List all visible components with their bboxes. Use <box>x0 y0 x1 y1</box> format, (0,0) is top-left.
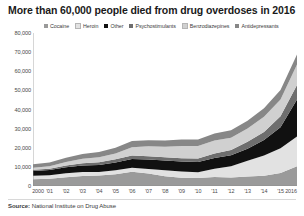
chart-page: More than 60,000 people died from drug o… <box>0 0 304 216</box>
legend-swatch-icon <box>104 24 108 28</box>
source-text: National Institute on Drug Abuse <box>32 203 116 209</box>
x-tick-label: '15 <box>277 188 284 194</box>
y-tick-label: 10,000 <box>0 164 31 170</box>
y-tick-label: 30,000 <box>0 126 31 132</box>
legend-label: Heroin <box>83 23 98 29</box>
y-tick-label: 50,000 <box>0 87 31 93</box>
x-tick-label: '06 <box>129 188 136 194</box>
x-tick-label: '11 <box>211 188 217 194</box>
x-tick-label: '09 <box>178 188 185 194</box>
x-tick-label: '12 <box>228 188 235 194</box>
legend-swatch-icon <box>182 23 188 29</box>
x-tick-label: 2000 <box>32 188 44 194</box>
y-axis-labels: 010,00020,00030,00040,00050,00060,00070,… <box>0 33 31 186</box>
x-axis-labels: 2000'01'02'03'04'05'06'07'08'09'10'11'12… <box>33 188 299 198</box>
x-tick-label: '10 <box>195 188 202 194</box>
legend-swatch-icon <box>75 23 81 29</box>
chart-title: More than 60,000 people died from drug o… <box>8 4 300 16</box>
legend-label: Cocaine <box>50 23 69 29</box>
x-tick-label: '07 <box>145 188 152 194</box>
legend-item-benzodiazepines[interactable]: Benzodiazepines <box>182 23 230 29</box>
legend-label: Psychostimulants <box>135 23 175 29</box>
y-tick-label: 70,000 <box>0 49 31 55</box>
legend-item-psychostimulants[interactable]: Psychostimulants <box>129 23 175 29</box>
stacked-area-plot <box>33 33 297 186</box>
x-tick-label: '13 <box>244 188 251 194</box>
footer-divider <box>8 199 296 200</box>
legend-item-heroin[interactable]: Heroin <box>75 23 98 29</box>
y-tick-label: 40,000 <box>0 107 31 113</box>
legend-swatch-icon <box>129 24 133 28</box>
legend-item-antidepressants[interactable]: Antidepressants <box>235 23 278 29</box>
source-prefix: Source: <box>8 203 30 209</box>
plot-area <box>33 33 297 186</box>
legend-label: Benzodiazepines <box>190 23 230 29</box>
x-tick-label: '01 <box>46 188 53 194</box>
legend-swatch-icon <box>235 24 239 28</box>
x-tick-label: '08 <box>162 188 169 194</box>
legend-label: Other <box>110 23 123 29</box>
chart-legend: CocaineHeroinOtherPsychostimulantsBenzod… <box>44 21 300 31</box>
legend-label: Antidepressants <box>241 23 278 29</box>
x-tick-label: '04 <box>96 188 103 194</box>
legend-item-cocaine[interactable]: Cocaine <box>44 23 69 29</box>
y-tick-label: 60,000 <box>0 68 31 74</box>
y-tick-label: 20,000 <box>0 145 31 151</box>
legend-swatch-icon <box>44 24 48 28</box>
source-note: Source: National Institute on Drug Abuse <box>8 203 116 209</box>
x-tick-label: '14 <box>261 188 268 194</box>
y-tick-label: 80,000 <box>0 30 31 36</box>
y-tick-label: 0 <box>0 183 31 189</box>
legend-item-other[interactable]: Other <box>104 23 123 29</box>
x-tick-label: '03 <box>79 188 86 194</box>
x-tick-label: '05 <box>112 188 119 194</box>
x-tick-label: '02 <box>63 188 70 194</box>
x-tick-label: 2016 <box>285 188 297 194</box>
